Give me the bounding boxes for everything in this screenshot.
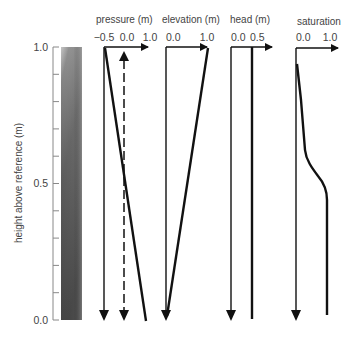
pressure-tick-0-0: 0.0 [120,31,135,43]
elevation-curve [167,48,208,316]
y-tick-0-5: 0.5 [33,177,48,189]
arrow-down-icon [226,310,236,321]
head-tick-0-5: 0.5 [250,31,265,43]
soil-column [61,47,82,320]
arrow-up-icon [119,51,129,61]
pressure-tick-1-0: 1.0 [143,31,158,43]
y-axis-label: height above reference (m) [13,123,24,243]
panel-pressure: pressure (m) −0.5 0.0 1.0 [94,14,158,321]
arrow-down-icon [119,310,129,321]
saturation-tick-0-0: 0.0 [296,31,311,43]
pressure-tick-neg0-5: −0.5 [94,31,115,43]
elevation-tick-1-0: 1.0 [200,31,215,43]
arrow-down-icon [99,310,109,321]
y-tick-1-0: 1.0 [33,41,48,53]
panel-title-saturation: saturation [297,16,341,27]
arrow-down-icon [291,310,301,321]
panel-title-elevation: elevation (m) [162,14,220,25]
pressure-curve [105,48,146,321]
panel-elevation: elevation (m) 0.0 1.0 [161,14,220,321]
saturation-tick-1-0: 1.0 [323,31,338,43]
elevation-tick-0-0: 0.0 [166,31,181,43]
y-axis-minor-ticks [53,47,59,320]
panel-saturation: saturation 0.0 1.0 [291,16,341,321]
saturation-curve [297,64,327,315]
y-axis: 1.0 0.5 0.0 height above reference (m) [13,41,59,326]
panel-title-head: head (m) [230,14,270,25]
panel-title-pressure: pressure (m) [96,14,153,25]
hydrostatics-diagram: 1.0 0.5 0.0 height above reference (m) p… [0,0,358,338]
y-tick-0-0: 0.0 [33,314,48,326]
panel-head: head (m) 0.0 0.5 [226,14,272,321]
head-tick-0-0: 0.0 [231,31,246,43]
